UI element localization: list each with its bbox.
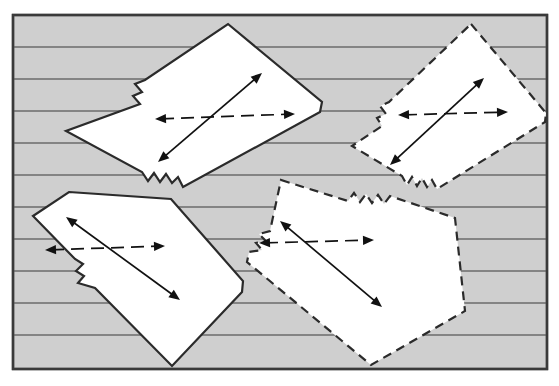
fault-block-diagram (0, 0, 559, 386)
figure-root (0, 0, 559, 386)
